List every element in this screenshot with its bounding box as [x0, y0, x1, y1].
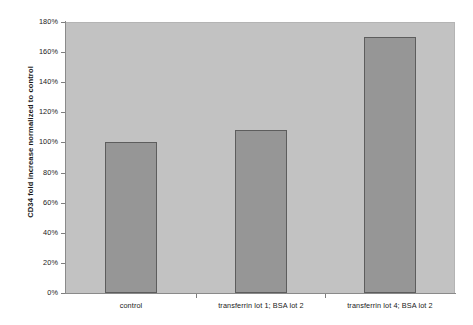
y-axis-tick-label-text: 120%: [12, 108, 58, 116]
y-axis-tick: [61, 263, 65, 264]
bar: [105, 142, 157, 293]
y-axis-tick-label-text: 100%: [12, 138, 58, 146]
y-axis-tick-label: 160%: [12, 48, 58, 56]
y-axis-tick: [61, 293, 65, 294]
y-axis-tick-label: 60%: [12, 199, 58, 207]
y-axis-tick: [61, 142, 65, 143]
y-axis-tick-label-text: 180%: [12, 18, 58, 26]
y-axis-title: CD34 fold increase normalized to control: [24, 0, 38, 292]
y-axis-tick: [61, 233, 65, 234]
y-axis-tick: [61, 22, 65, 23]
y-axis-tick-label-text: 40%: [12, 229, 58, 237]
y-axis-tick-label: 120%: [12, 108, 58, 116]
x-axis-line: [65, 293, 456, 294]
x-axis-tick-label: control: [66, 301, 196, 310]
x-axis-tick-label: transferrin lot 1; BSA lot 2: [196, 301, 326, 310]
y-axis-tick-label: 140%: [12, 78, 58, 86]
y-axis-line: [65, 21, 66, 294]
y-axis-tick-label-text: 0%: [12, 289, 58, 297]
y-axis-tick: [61, 203, 65, 204]
y-axis-tick: [61, 112, 65, 113]
y-axis-tick-label-text: 60%: [12, 199, 58, 207]
y-axis-tick-label: 80%: [12, 169, 58, 177]
y-axis-tick-label: 20%: [12, 259, 58, 267]
bar: [235, 130, 287, 293]
y-axis-tick-label-text: 20%: [12, 259, 58, 267]
x-axis-tick: [325, 294, 326, 298]
y-axis-tick-label-text: 140%: [12, 78, 58, 86]
y-axis-tick: [61, 52, 65, 53]
y-axis-tick-label: 180%: [12, 18, 58, 26]
bar: [364, 37, 416, 293]
x-axis-tick-label: transferrin lot 4; BSA lot 2: [325, 301, 455, 310]
y-axis-tick: [61, 173, 65, 174]
y-axis-tick-label-text: 160%: [12, 48, 58, 56]
y-axis-tick: [61, 82, 65, 83]
y-axis-tick-label: 100%: [12, 138, 58, 146]
y-axis-tick-label: 0%: [12, 289, 58, 297]
y-axis-tick-label: 40%: [12, 229, 58, 237]
y-axis-tick-label-text: 80%: [12, 169, 58, 177]
x-axis-tick: [196, 294, 197, 298]
bar-chart: CD34 fold increase normalized to control…: [0, 0, 473, 325]
